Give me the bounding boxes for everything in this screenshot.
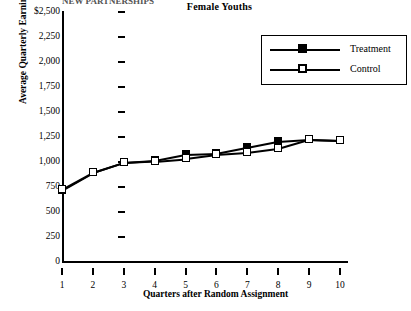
data-point — [89, 168, 97, 176]
data-point — [274, 144, 282, 152]
x-axis-tick — [123, 268, 125, 275]
filled-square-icon — [298, 44, 307, 53]
y-axis-labels: $2,5002,2502,0001,7501,5001,2501,0007505… — [4, 12, 60, 262]
data-point — [212, 150, 220, 158]
y-axis-label: 1,000 — [4, 157, 60, 167]
data-point — [336, 136, 344, 144]
data-point — [120, 158, 128, 166]
x-axis-tick — [154, 268, 156, 275]
chart-figure: NEW PARTNERSHIPS Female Youths $2,5002,2… — [0, 0, 411, 311]
y-axis-label: 2,000 — [4, 57, 60, 67]
x-axis-tick — [308, 268, 310, 275]
y-axis-label: 1,250 — [4, 132, 60, 142]
x-axis-tick — [339, 268, 341, 275]
legend-item-control[interactable]: Control — [270, 62, 402, 78]
x-axis-title: Quarters after Random Assignment — [0, 289, 411, 299]
y-axis-label: 2,250 — [4, 32, 60, 42]
data-point — [58, 185, 66, 193]
open-square-icon — [298, 64, 307, 73]
x-axis-tick — [246, 268, 248, 275]
legend: Treatment Control — [261, 35, 407, 85]
y-axis-label: 1,500 — [4, 107, 60, 117]
x-axis-tick — [92, 268, 94, 275]
legend-label: Treatment — [350, 43, 391, 54]
y-axis-label: 500 — [4, 207, 60, 217]
data-point — [182, 154, 190, 162]
x-axis-tick — [215, 268, 217, 275]
data-point — [305, 135, 313, 143]
chart-title-text: Female Youths — [187, 1, 252, 12]
data-point — [243, 148, 251, 156]
legend-item-treatment[interactable]: Treatment — [270, 42, 402, 58]
x-axis-tick — [61, 268, 63, 275]
x-axis-tick — [277, 268, 279, 275]
legend-label: Control — [350, 63, 381, 74]
data-point — [151, 157, 159, 165]
y-axis-label: $2,500 — [4, 7, 60, 17]
y-axis-label: 0 — [4, 257, 60, 267]
y-axis-label: 250 — [4, 232, 60, 242]
y-axis-title: Average Quarterly Earnings — [18, 0, 28, 104]
y-axis-label: 750 — [4, 182, 60, 192]
y-axis-label: 1,750 — [4, 82, 60, 92]
x-axis-tick — [185, 268, 187, 275]
